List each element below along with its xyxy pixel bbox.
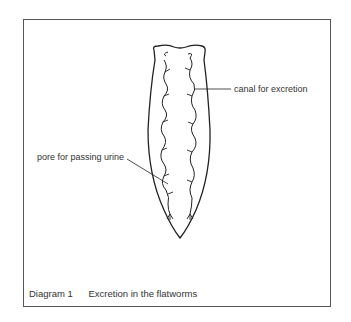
diagram-caption: Diagram 1 Excretion in the flatworms [29, 288, 197, 299]
caption-title: Excretion in the flatworms [88, 288, 197, 299]
pore-label: pore for passing urine [37, 152, 124, 162]
caption-number: Diagram 1 [29, 288, 73, 299]
left-excretory-canal [161, 52, 170, 214]
flatworm-body-outline [148, 45, 210, 238]
canal-branches [162, 68, 193, 220]
right-excretory-canal [188, 54, 196, 215]
canal-label: canal for excretion [234, 84, 308, 94]
pore-leader-line [127, 159, 168, 184]
